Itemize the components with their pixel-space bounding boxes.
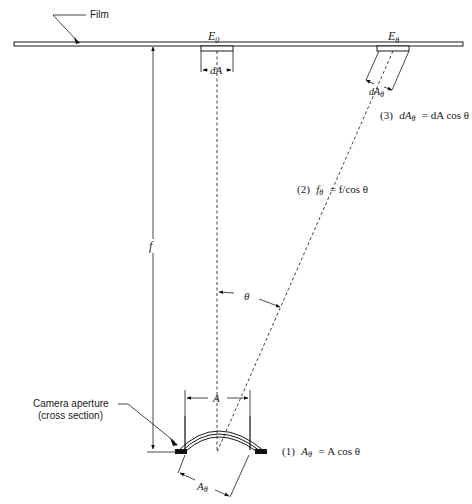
theta-label: θ bbox=[244, 290, 250, 302]
aperture-film-diagram: Film E0 dA Eθ dAθ bbox=[0, 0, 472, 504]
equation-2: (2) fθ = f/cos θ bbox=[297, 179, 368, 198]
aperture-stop-right bbox=[255, 449, 267, 454]
equation-3: (3) dAθ = dA cos θ bbox=[380, 105, 469, 124]
aperture-stop-left bbox=[175, 449, 187, 454]
film-leader-line bbox=[53, 15, 86, 42]
Atheta-label: Aθ bbox=[196, 480, 208, 494]
aperture-label-line1: Camera aperture bbox=[33, 398, 109, 409]
film-label: Film bbox=[90, 9, 109, 20]
aperture-leader-arrowhead bbox=[170, 438, 178, 446]
svg-text:(1) Aθ = A cos θ: (1) Aθ = A cos θ bbox=[282, 441, 360, 460]
svg-text:(3) dAθ = dA cos θ: (3) dAθ = dA cos θ bbox=[380, 105, 469, 124]
aperture-leader-line bbox=[118, 404, 175, 442]
A-label: A bbox=[212, 392, 220, 404]
offaxis-element: Eθ dAθ bbox=[366, 29, 409, 99]
oblique-ray bbox=[217, 51, 393, 452]
center-dA-patch bbox=[201, 46, 233, 51]
svg-text:(2) fθ = f/cos θ: (2) fθ = f/cos θ bbox=[297, 179, 368, 198]
camera-aperture-shape bbox=[175, 431, 267, 454]
Etheta-label: Eθ bbox=[387, 29, 399, 45]
aperture-theta-dimension: Aθ bbox=[178, 455, 249, 497]
focal-length-dimension: f bbox=[146, 47, 185, 452]
aperture-label-group: Camera aperture (cross section) bbox=[33, 398, 178, 446]
aperture-label-line2: (cross section) bbox=[38, 410, 103, 421]
dA-label: dA bbox=[210, 64, 223, 76]
E0-label: E0 bbox=[207, 29, 219, 45]
film-label-group: Film bbox=[53, 9, 109, 44]
equation-1: (1) Aθ = A cos θ bbox=[282, 441, 360, 460]
theta-angle-indicator: θ bbox=[219, 290, 280, 307]
offaxis-dA-patch bbox=[377, 46, 409, 51]
